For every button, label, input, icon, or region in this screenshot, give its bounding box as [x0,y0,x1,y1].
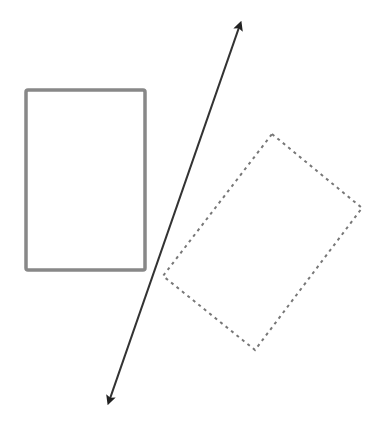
diagram-canvas [0,0,383,434]
diagram-svg [0,0,383,434]
line-of-reflection [109,25,239,400]
dashed-rectangle [163,134,362,350]
solid-rectangle [26,90,145,270]
